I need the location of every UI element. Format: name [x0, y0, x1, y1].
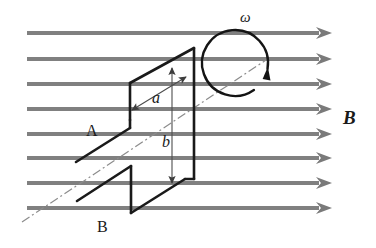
rotation-direction-arrow — [202, 30, 271, 96]
side-length-a-label: a — [152, 89, 160, 106]
terminal-a-label: A — [86, 122, 98, 139]
magnetic-field-label: B — [342, 107, 356, 128]
side-length-b-label: b — [162, 133, 170, 150]
figure-canvas: B ω a b A B — [0, 0, 376, 248]
physics-figure-rotating-loop: B ω a b A B — [0, 0, 376, 248]
terminal-b-label: B — [97, 218, 108, 235]
rotation-arc-path — [202, 30, 268, 96]
angular-velocity-label: ω — [240, 9, 251, 25]
